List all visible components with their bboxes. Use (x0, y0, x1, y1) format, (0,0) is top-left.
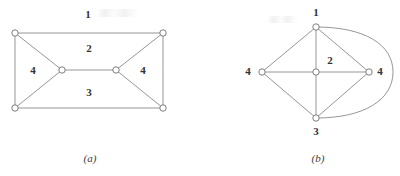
graph-svg-canvas (0, 0, 400, 176)
vertex-mid-left (59, 67, 65, 73)
face-label-upper-2: 2 (86, 43, 92, 54)
edge-bl-midleft (15, 70, 62, 108)
vertex-node-left-4 (259, 69, 265, 75)
vertex-bottom-left (12, 105, 18, 111)
vertex-node-right-4 (366, 69, 372, 75)
vertex-node-2 (313, 69, 319, 75)
vertex-node-1 (313, 24, 319, 30)
outer-face-label-1: 1 (85, 9, 91, 20)
edge-1-left4 (262, 27, 316, 72)
vertex-label-3: 3 (313, 126, 319, 137)
vertex-node-3 (313, 115, 319, 121)
edge-tl-midleft (15, 33, 62, 70)
face-label-left-4: 4 (30, 65, 36, 76)
face-label-lower-3: 3 (86, 87, 92, 98)
vertex-top-right (160, 30, 166, 36)
vertex-mid-right (113, 67, 119, 73)
diagram-b-edges (262, 27, 393, 118)
diagram-b-vertices (259, 24, 372, 121)
vertex-label-right-4: 4 (377, 66, 383, 77)
vertex-label-1: 1 (313, 7, 319, 18)
vertex-label-2: 2 (327, 55, 333, 66)
figure-root: 1 2 3 4 4 1 2 3 4 4 (a) (b) (0, 0, 400, 176)
face-label-right-4: 4 (140, 65, 146, 76)
vertex-bottom-right (160, 105, 166, 111)
edge-3-left4 (262, 72, 316, 118)
caption-b: (b) (312, 152, 325, 164)
vertex-label-left-4: 4 (245, 66, 251, 77)
edge-br-midright (116, 70, 163, 108)
caption-a: (a) (84, 152, 97, 164)
vertex-top-left (12, 30, 18, 36)
